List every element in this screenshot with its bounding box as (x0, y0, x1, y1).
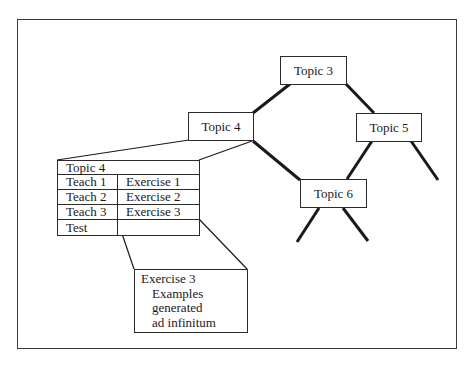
topic-expansion-table: Topic 4 Teach 1 Exercise 1 Teach 2 Exerc… (57, 160, 200, 236)
detail-title: Exercise 3 (141, 272, 247, 287)
table-cell-teach: Teach 1 (58, 175, 118, 189)
table-row: Test (58, 220, 199, 235)
table-cell-teach: Teach 3 (58, 205, 118, 219)
table-cell-exercise: Exercise 1 (118, 175, 199, 189)
node-topic3: Topic 3 (280, 56, 347, 85)
node-label: Topic 4 (201, 119, 240, 135)
table-title-row: Topic 4 (58, 161, 199, 175)
table-row: Teach 2 Exercise 2 (58, 190, 199, 205)
table-cell-exercise: Exercise 3 (118, 205, 199, 219)
node-label: Topic 3 (294, 63, 333, 79)
table-cell-empty (118, 220, 199, 235)
node-label: Topic 5 (369, 120, 408, 136)
node-topic4: Topic 4 (188, 112, 254, 141)
table-cell-teach: Teach 2 (58, 190, 118, 204)
table-cell-exercise: Exercise 2 (118, 190, 199, 204)
node-label: Topic 6 (314, 186, 353, 202)
table-title: Topic 4 (58, 161, 199, 174)
node-topic5: Topic 5 (356, 113, 422, 142)
detail-line: ad infinitum (141, 316, 247, 331)
detail-line: Examples (141, 287, 247, 302)
node-topic6: Topic 6 (300, 179, 367, 208)
detail-line: generated (141, 301, 247, 316)
table-row: Teach 3 Exercise 3 (58, 205, 199, 220)
exercise-detail-box: Exercise 3 Examples generated ad infinit… (134, 269, 248, 333)
table-row: Teach 1 Exercise 1 (58, 175, 199, 190)
table-cell-test: Test (58, 220, 118, 235)
